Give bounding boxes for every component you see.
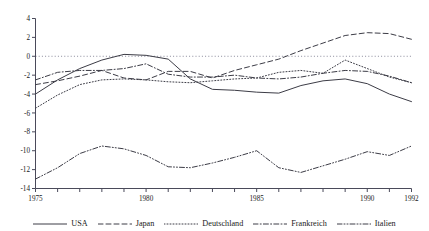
y-tick-label: -14: [20, 185, 30, 193]
legend-label: Italien: [375, 219, 396, 228]
y-tick-label: -8: [24, 128, 30, 136]
y-tick-label: 4: [26, 15, 30, 23]
y-tick-label: 0: [26, 53, 30, 61]
legend-item-usa[interactable]: USA: [33, 219, 87, 228]
legend-item-frankreich[interactable]: Frankreich: [253, 219, 326, 228]
legend-swatch-usa: [33, 220, 67, 228]
series-line-japan: [36, 33, 412, 85]
series-line-usa: [36, 54, 412, 101]
legend-label: Frankreich: [291, 219, 326, 228]
x-tick-label: 1990: [360, 195, 375, 203]
legend-swatch-japan: [98, 220, 132, 228]
legend-swatch-frankreich: [253, 220, 287, 228]
legend-item-japan[interactable]: Japan: [98, 219, 155, 228]
x-axis-labels: 19751980198519901992: [28, 195, 419, 203]
series-line-italien: [36, 146, 412, 179]
y-axis-labels: 420-2-4-6-8-10-12-14: [20, 15, 30, 193]
legend-swatch-italien: [337, 220, 371, 228]
x-tick-label: 1975: [28, 195, 43, 203]
legend-swatch-deutschland: [164, 220, 198, 228]
data-series-group: [36, 33, 412, 179]
y-axis-ticks: [32, 19, 36, 189]
line-chart: 420-2-4-6-8-10-12-14 1975198019851990199…: [0, 0, 429, 231]
x-tick-label: 1992: [404, 195, 419, 203]
chart-legend: USAJapanDeutschlandFrankreichItalien: [0, 219, 429, 228]
y-tick-label: -4: [24, 91, 30, 99]
y-tick-label: -6: [24, 110, 30, 118]
y-tick-label: -2: [24, 72, 30, 80]
y-tick-label: -10: [20, 147, 30, 155]
legend-label: Deutschland: [202, 219, 243, 228]
plot-area: 420-2-4-6-8-10-12-14 1975198019851990199…: [0, 0, 429, 231]
x-axis-ticks: [36, 189, 412, 193]
legend-label: Japan: [136, 219, 155, 228]
x-tick-label: 1985: [249, 195, 264, 203]
legend-label: USA: [71, 219, 87, 228]
x-tick-label: 1980: [139, 195, 154, 203]
y-tick-label: 2: [26, 34, 30, 42]
legend-item-deutschland[interactable]: Deutschland: [164, 219, 243, 228]
legend-item-italien[interactable]: Italien: [337, 219, 396, 228]
series-line-deutschland: [36, 60, 412, 108]
y-tick-label: -12: [20, 166, 30, 174]
